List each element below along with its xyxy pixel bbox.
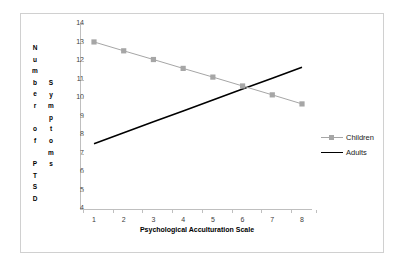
y-axis-title-char: o <box>33 123 37 135</box>
data-point-marker <box>299 101 304 106</box>
legend-item-children[interactable]: Children <box>321 130 401 145</box>
y-axis-title-char: T <box>33 170 37 182</box>
y-axis-title-char: s <box>49 158 53 170</box>
chart-figure: NumberofPTSD Symptoms 1413121110987654 1… <box>20 13 384 253</box>
y-axis-title-char: f <box>34 135 36 147</box>
legend-label-children: Children <box>346 133 374 142</box>
y-axis-title-char: r <box>34 100 37 112</box>
y-axis-title-char: t <box>50 123 52 135</box>
data-point-marker <box>181 66 186 71</box>
x-axis-title: Psychological Acculturation Scale <box>80 226 314 233</box>
y-axis-title-char: S <box>33 181 37 193</box>
legend-key-children-icon <box>321 133 343 143</box>
data-point-marker <box>270 92 275 97</box>
series-line <box>94 67 302 143</box>
legend-item-adults[interactable]: Adults <box>321 145 401 160</box>
legend-key-adults-icon <box>321 148 343 158</box>
data-point-marker <box>240 83 245 88</box>
y-axis-title-char: N <box>33 42 38 54</box>
y-axis-title-char: p <box>49 112 53 124</box>
data-point-marker <box>210 74 215 79</box>
y-axis-title-char: y <box>49 89 53 101</box>
y-axis-title-char: m <box>32 65 38 77</box>
data-point-marker <box>121 48 126 53</box>
y-axis-title-char: D <box>33 193 38 205</box>
y-axis-title-char: P <box>33 158 37 170</box>
y-axis-title-char: u <box>33 54 37 66</box>
series-adults <box>94 67 302 143</box>
plot-area: 1413121110987654 12345678 <box>80 24 314 222</box>
data-point-marker <box>91 39 96 44</box>
chart-legend: Children Adults <box>321 130 401 160</box>
y-axis-title-char: e <box>33 88 37 100</box>
y-axis-title-char: m <box>48 100 54 112</box>
data-point-marker <box>151 57 156 62</box>
series-children <box>91 39 304 106</box>
y-axis-title-char: m <box>48 147 54 159</box>
legend-label-adults: Adults <box>346 148 367 157</box>
y-axis-title-column-1: NumberofPTSD <box>27 32 43 204</box>
series-layer <box>80 24 314 222</box>
y-axis-title-char: S <box>49 77 53 89</box>
x-tick-mark <box>316 210 317 213</box>
y-axis-title-char: b <box>33 77 37 89</box>
y-axis-title-char: o <box>49 135 53 147</box>
